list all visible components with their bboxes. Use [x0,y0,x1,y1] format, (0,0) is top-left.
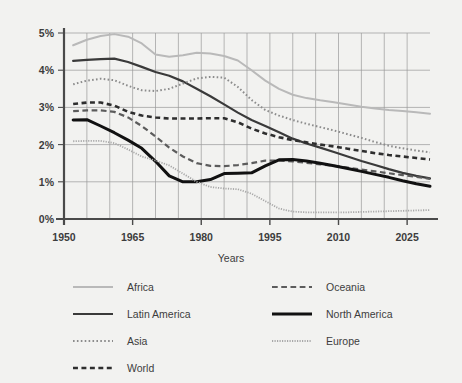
legend-label: World [127,362,154,374]
y-axis-tick-label: 4% [39,64,55,76]
y-axis-tick-label: 2% [39,139,55,151]
x-axis-title: Years [218,252,244,264]
x-axis-tick-label: 1965 [121,231,145,243]
legend-label: Africa [127,281,154,293]
legend-label: Latin America [127,308,191,320]
y-axis-tick-label: 1% [39,176,55,188]
y-axis-tick-label: 0% [39,213,55,225]
chart-canvas: 0%1%2%3%4%5% 195019651980199520102025 Ye… [0,0,462,383]
x-axis-tick-label: 2010 [327,231,351,243]
y-axis-tick-label: 3% [39,101,55,113]
legend-label: Asia [127,335,148,347]
legend-label: North America [326,308,393,320]
x-axis-tick-label: 1950 [52,231,76,243]
legend-label: Oceania [326,281,365,293]
x-axis-tick-label: 1995 [258,231,282,243]
x-axis-tick-label: 2025 [395,231,419,243]
x-axis-tick-label: 1980 [190,231,214,243]
population-growth-rate-chart: 0%1%2%3%4%5% 195019651980199520102025 Ye… [0,0,462,383]
legend-label: Europe [326,335,360,347]
y-axis-tick-label: 5% [39,27,55,39]
